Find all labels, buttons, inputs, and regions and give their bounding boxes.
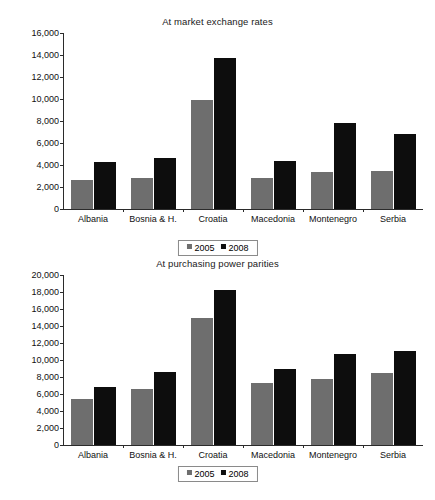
x-axis-category-label: Macedonia (251, 214, 295, 224)
bar-2005-croatia (191, 100, 213, 209)
x-axis-tick-mark (303, 209, 304, 212)
y-axis-tick-mark (60, 55, 63, 56)
legend-bottom: 2005 2008 (177, 466, 257, 482)
y-axis-tick-label: 8,000 (36, 373, 59, 382)
x-axis-tick-mark (303, 445, 304, 448)
x-axis-tick-mark (123, 209, 124, 212)
y-axis-tick-label: 10,000 (31, 95, 59, 104)
bar-2008-montenegro (334, 354, 356, 445)
y-axis-tick-label: 16,000 (31, 29, 59, 38)
bar-2005-macedonia (251, 178, 273, 209)
y-axis-tick-label: 20,000 (31, 271, 59, 280)
y-axis-line (63, 275, 64, 446)
bar-2005-bosnia-h (131, 178, 153, 209)
y-axis-tick-label: 0 (54, 441, 59, 450)
bar-2008-bosnia-h (154, 158, 176, 209)
y-axis-tick-mark (60, 394, 63, 395)
x-axis-category-label: Montenegro (309, 450, 357, 460)
y-axis-tick-label: 6,000 (36, 390, 59, 399)
bar-2008-serbia (394, 134, 416, 209)
y-axis-tick-mark (60, 326, 63, 327)
y-axis-tick-mark (60, 360, 63, 361)
y-axis-tick-mark (60, 209, 63, 210)
y-axis-tick-mark (60, 99, 63, 100)
y-axis-tick-mark (60, 343, 63, 344)
bar-2005-serbia (371, 171, 393, 209)
bar-2008-albania (94, 162, 116, 209)
y-axis-tick-mark (60, 309, 63, 310)
y-axis-tick-mark (60, 275, 63, 276)
x-axis-category-label: Serbia (380, 450, 406, 460)
bar-2008-macedonia (274, 369, 296, 446)
bar-2005-montenegro (311, 379, 333, 445)
x-axis-category-label: Macedonia (251, 450, 295, 460)
x-axis-category-label: Serbia (380, 214, 406, 224)
x-axis-tick-mark (363, 209, 364, 212)
bar-2005-albania (71, 180, 93, 209)
bar-2008-serbia (394, 351, 416, 445)
x-axis-category-label: Bosnia & H. (129, 450, 177, 460)
x-axis-tick-mark (243, 209, 244, 212)
y-axis-tick-label: 4,000 (36, 161, 59, 170)
legend-label-2008: 2008 (229, 469, 249, 479)
y-axis-tick-label: 0 (54, 205, 59, 214)
x-axis-tick-mark (123, 445, 124, 448)
x-axis-category-label: Croatia (198, 214, 227, 224)
bar-2005-bosnia-h (131, 389, 153, 445)
legend-label-2005: 2005 (194, 469, 214, 479)
y-axis-tick-mark (60, 292, 63, 293)
bar-2005-albania (71, 399, 93, 445)
x-axis-category-label: Montenegro (309, 214, 357, 224)
y-axis-tick-mark (60, 33, 63, 34)
y-axis-line (63, 33, 64, 210)
y-axis-tick-mark (60, 143, 63, 144)
x-axis-category-label: Croatia (198, 450, 227, 460)
y-axis-tick-label: 8,000 (36, 117, 59, 126)
y-axis-tick-label: 2,000 (36, 424, 59, 433)
y-axis-tick-mark (60, 411, 63, 412)
y-axis-tick-mark (60, 121, 63, 122)
y-axis-tick-mark (60, 165, 63, 166)
y-axis-tick-mark (60, 187, 63, 188)
y-axis-tick-label: 10,000 (31, 356, 59, 365)
bar-2005-croatia (191, 318, 213, 445)
y-axis-tick-label: 6,000 (36, 139, 59, 148)
bar-2008-montenegro (334, 123, 356, 209)
y-axis-tick-label: 18,000 (31, 288, 59, 297)
x-axis-tick-mark (243, 445, 244, 448)
plot-area-top: 02,0004,0006,0008,00010,00012,00014,0001… (0, 0, 435, 249)
x-axis-category-label: Bosnia & H. (129, 214, 177, 224)
legend-swatch-2005-icon (186, 470, 191, 475)
x-axis-tick-mark (363, 445, 364, 448)
y-axis-tick-mark (60, 77, 63, 78)
bar-2008-bosnia-h (154, 372, 176, 445)
y-axis-tick-mark (60, 445, 63, 446)
legend-swatch-2008-icon (221, 470, 226, 475)
legend-item-2005: 2005 (186, 468, 214, 479)
y-axis-tick-mark (60, 428, 63, 429)
y-axis-tick-label: 14,000 (31, 51, 59, 60)
chart-market-exchange-rates: At market exchange rates 02,0004,0006,00… (0, 0, 435, 258)
y-axis-tick-mark (60, 377, 63, 378)
bar-2005-montenegro (311, 172, 333, 209)
chart-purchasing-power-parities: At purchasing power parities 02,0004,000… (0, 248, 435, 500)
x-axis-category-label: Albania (78, 214, 108, 224)
y-axis-tick-label: 16,000 (31, 305, 59, 314)
y-axis-tick-label: 12,000 (31, 73, 59, 82)
bar-2008-croatia (214, 290, 236, 445)
x-axis-tick-mark (183, 209, 184, 212)
plot-area-bottom: 02,0004,0006,0008,00010,00012,00014,0001… (0, 248, 435, 485)
bar-2008-croatia (214, 58, 236, 209)
legend-item-2008: 2008 (221, 468, 249, 479)
bar-2008-albania (94, 387, 116, 445)
bar-2008-macedonia (274, 161, 296, 209)
y-axis-tick-label: 2,000 (36, 183, 59, 192)
y-axis-tick-label: 4,000 (36, 407, 59, 416)
bar-2005-serbia (371, 373, 393, 445)
bar-2005-macedonia (251, 383, 273, 445)
y-axis-tick-label: 14,000 (31, 322, 59, 331)
y-axis-tick-label: 12,000 (31, 339, 59, 348)
x-axis-category-label: Albania (78, 450, 108, 460)
x-axis-tick-mark (183, 445, 184, 448)
